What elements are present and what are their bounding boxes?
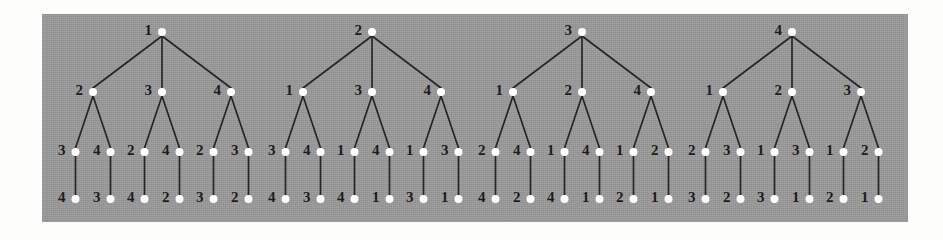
node-level2-0-1[interactable] (158, 88, 166, 96)
node-leaf-0-0-1[interactable] (107, 195, 115, 203)
node-leaf-1-1-0[interactable] (351, 195, 359, 203)
node-level2-label-0-2: 4 (214, 82, 222, 98)
node-leaf-label-3-1-1: 1 (792, 189, 800, 205)
node-level2-0-0[interactable] (89, 88, 97, 96)
node-leaf-label-2-1-0: 4 (547, 189, 555, 205)
node-leaf-1-0-1[interactable] (317, 195, 325, 203)
node-level2-label-3-1: 2 (775, 82, 783, 98)
node-root-3[interactable] (788, 28, 796, 36)
node-leaf-3-2-1[interactable] (875, 195, 883, 203)
node-level3-2-1-1[interactable] (596, 148, 604, 156)
node-leaf-3-1-1[interactable] (806, 195, 814, 203)
node-level2-2-1[interactable] (578, 88, 586, 96)
node-level3-1-0-1[interactable] (317, 148, 325, 156)
node-level3-label-1-1-1: 4 (372, 142, 380, 158)
node-leaf-0-1-0[interactable] (141, 195, 149, 203)
node-level3-0-1-0[interactable] (141, 148, 149, 156)
node-level3-1-2-1[interactable] (455, 148, 463, 156)
node-level2-1-2[interactable] (437, 88, 445, 96)
node-level3-0-2-0[interactable] (210, 148, 218, 156)
node-level2-1-1[interactable] (368, 88, 376, 96)
edge-branch-2-0-0 (496, 96, 514, 148)
node-level2-0-2[interactable] (227, 88, 235, 96)
edge-branch-2-0-1 (513, 96, 531, 148)
edge-branch-3-1-0 (775, 96, 793, 148)
node-level3-0-0-1[interactable] (107, 148, 115, 156)
node-level3-1-0-0[interactable] (282, 148, 290, 156)
node-level3-3-0-1[interactable] (737, 148, 745, 156)
node-level3-label-1-2-1: 3 (441, 142, 449, 158)
node-leaf-label-2-0-1: 2 (513, 189, 521, 205)
node-level2-3-2[interactable] (857, 88, 865, 96)
node-level3-2-2-0[interactable] (630, 148, 638, 156)
node-leaf-3-0-0[interactable] (702, 195, 710, 203)
node-level2-label-3-2: 3 (844, 82, 852, 98)
node-leaf-1-0-0[interactable] (282, 195, 290, 203)
node-level3-1-2-0[interactable] (420, 148, 428, 156)
node-level3-0-1-1[interactable] (176, 148, 184, 156)
node-level3-label-1-0-0: 3 (268, 142, 276, 158)
node-level3-2-0-1[interactable] (527, 148, 535, 156)
edge-branch-3-2-1 (861, 96, 879, 148)
node-leaf-0-0-0[interactable] (72, 195, 80, 203)
node-leaf-label-2-2-0: 2 (616, 189, 624, 205)
node-level3-3-1-1[interactable] (806, 148, 814, 156)
node-level3-0-0-0[interactable] (72, 148, 80, 156)
node-leaf-3-1-0[interactable] (771, 195, 779, 203)
node-leaf-3-2-0[interactable] (840, 195, 848, 203)
node-level3-label-0-0-1: 4 (93, 142, 101, 158)
node-level3-2-0-0[interactable] (492, 148, 500, 156)
node-leaf-2-1-1[interactable] (596, 195, 604, 203)
node-level3-1-1-0[interactable] (351, 148, 359, 156)
node-root-2[interactable] (578, 28, 586, 36)
node-leaf-2-2-0[interactable] (630, 195, 638, 203)
node-level3-2-2-1[interactable] (665, 148, 673, 156)
node-level3-label-0-1-1: 4 (162, 142, 170, 158)
node-level3-label-3-1-0: 1 (757, 142, 765, 158)
node-level3-label-2-0-0: 2 (478, 142, 486, 158)
node-level3-label-0-2-0: 2 (196, 142, 204, 158)
node-leaf-0-2-0[interactable] (210, 195, 218, 203)
node-level3-1-1-1[interactable] (386, 148, 394, 156)
edge-branch-1-1-1 (372, 96, 390, 148)
node-leaf-label-3-0-0: 3 (688, 189, 696, 205)
node-root-1[interactable] (368, 28, 376, 36)
node-leaf-3-0-1[interactable] (737, 195, 745, 203)
node-leaf-label-1-0-1: 3 (303, 189, 311, 205)
node-leaf-2-1-0[interactable] (561, 195, 569, 203)
edge-branch-1-0-1 (303, 96, 321, 148)
node-level2-2-2[interactable] (647, 88, 655, 96)
node-level3-3-2-0[interactable] (840, 148, 848, 156)
node-level3-label-1-2-0: 1 (406, 142, 414, 158)
node-level2-2-0[interactable] (509, 88, 517, 96)
node-level3-3-0-0[interactable] (702, 148, 710, 156)
node-level2-1-0[interactable] (299, 88, 307, 96)
node-leaf-label-3-1-0: 3 (757, 189, 765, 205)
node-leaf-2-0-1[interactable] (527, 195, 535, 203)
node-leaf-label-1-1-0: 4 (337, 189, 345, 205)
node-leaf-1-1-1[interactable] (386, 195, 394, 203)
node-leaf-0-1-1[interactable] (176, 195, 184, 203)
node-level2-3-1[interactable] (788, 88, 796, 96)
node-level3-0-2-1[interactable] (245, 148, 253, 156)
node-level3-2-1-0[interactable] (561, 148, 569, 156)
node-root-0[interactable] (158, 28, 166, 36)
node-level3-label-0-2-1: 3 (231, 142, 239, 158)
edge-branch-2-1-0 (565, 96, 583, 148)
node-level3-label-0-1-0: 2 (127, 142, 135, 158)
node-level2-3-0[interactable] (719, 88, 727, 96)
node-level3-label-1-0-1: 4 (303, 142, 311, 158)
node-level3-3-2-1[interactable] (875, 148, 883, 156)
node-leaf-2-0-0[interactable] (492, 195, 500, 203)
node-leaf-1-2-1[interactable] (455, 195, 463, 203)
node-leaf-0-2-1[interactable] (245, 195, 253, 203)
node-root-label-2: 3 (565, 22, 573, 38)
node-leaf-2-2-1[interactable] (665, 195, 673, 203)
edge-branch-1-0-0 (286, 96, 304, 148)
node-leaf-1-2-0[interactable] (420, 195, 428, 203)
edge-branch-2-1-1 (582, 96, 600, 148)
node-leaf-label-0-2-1: 2 (231, 189, 239, 205)
edge-branch-1-1-0 (355, 96, 373, 148)
edge-branch-0-2-0 (214, 96, 232, 148)
node-level3-3-1-0[interactable] (771, 148, 779, 156)
